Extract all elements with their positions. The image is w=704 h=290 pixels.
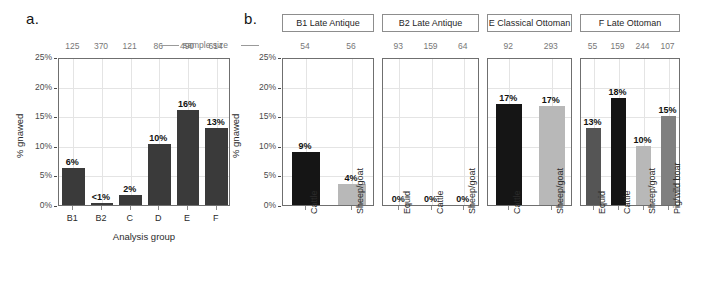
sample-size-value: 107 xyxy=(650,41,686,51)
gridline-h xyxy=(59,176,229,177)
bar-value-label: 6% xyxy=(48,157,96,167)
x-tick-mark-facet xyxy=(351,206,352,210)
y-tick-label-a: 0% xyxy=(24,200,52,210)
y-tick-mark-b xyxy=(278,147,281,148)
x-tick-mark-a xyxy=(187,206,188,210)
y-tick-label-b: 20% xyxy=(246,82,276,92)
sample-size-value: 92 xyxy=(490,41,526,51)
y-tick-mark-b xyxy=(278,58,281,59)
y-tick-label-b: 10% xyxy=(246,141,276,151)
y-tick-mark-b xyxy=(278,117,281,118)
gridline-h xyxy=(59,147,229,148)
x-axis-title-a: Analysis group xyxy=(58,231,230,242)
y-tick-label-a: 15% xyxy=(24,111,52,121)
y-tick-label-a: 5% xyxy=(24,170,52,180)
bar-value-label: 4% xyxy=(331,173,371,183)
x-tick-mark-facet xyxy=(463,206,464,210)
x-tick-mark-facet xyxy=(668,206,669,210)
gridline-v xyxy=(399,59,400,205)
x-category-label: Sheep/goat xyxy=(355,168,365,214)
x-tick-mark-facet xyxy=(618,206,619,210)
x-tick-mark-facet xyxy=(551,206,552,210)
y-tick-mark-a xyxy=(54,176,57,177)
figure-root: a.% gnawed0%5%10%15%20%25%6%<1%2%10%16%1… xyxy=(0,0,704,290)
x-tick-mark-a xyxy=(216,206,217,210)
gridline-v xyxy=(464,59,465,205)
y-tick-mark-a xyxy=(54,117,57,118)
x-tick-mark-facet xyxy=(431,206,432,210)
y-tick-label-a: 25% xyxy=(24,52,52,62)
sample-size-value: 293 xyxy=(533,41,569,51)
plot-area-facet xyxy=(580,58,680,206)
y-tick-mark-b xyxy=(278,88,281,89)
x-category-label: Equid xyxy=(597,191,607,214)
bar-value-label: 10% xyxy=(623,135,663,145)
panel-a-letter: a. xyxy=(26,10,39,27)
sample-size-value: 159 xyxy=(413,41,449,51)
sample-size-dash-right xyxy=(241,45,259,46)
sample-size-value: 93 xyxy=(380,41,416,51)
gridline-h xyxy=(59,58,229,59)
y-tick-label-b: 5% xyxy=(246,170,276,180)
x-tick-mark-facet xyxy=(508,206,509,210)
facet-strip: B1 Late Antique xyxy=(282,14,374,32)
sample-size-dash-left xyxy=(161,45,179,46)
x-category-label: Pig/wild boar xyxy=(672,162,682,214)
x-tick-mark-a xyxy=(130,206,131,210)
bar xyxy=(148,144,170,205)
x-tick-mark-a xyxy=(72,206,73,210)
y-tick-label-a: 10% xyxy=(24,141,52,151)
x-tick-mark-facet xyxy=(305,206,306,210)
bar-value-label: 16% xyxy=(163,99,211,109)
y-tick-label-b: 25% xyxy=(246,52,276,62)
x-tick-mark-a xyxy=(158,206,159,210)
panel-b-letter: b. xyxy=(244,10,257,27)
bar-value-label: 13% xyxy=(573,117,613,127)
y-tick-mark-a xyxy=(54,88,57,89)
sample-size-value: 54 xyxy=(287,41,323,51)
x-category-label: Equid xyxy=(402,191,412,214)
sample-size-value: 56 xyxy=(333,41,369,51)
x-category-label: Cattle xyxy=(435,190,445,214)
x-tick-mark-facet xyxy=(398,206,399,210)
x-category-label: Sheep/goat xyxy=(555,168,565,214)
gridline-v xyxy=(102,59,103,205)
x-tick-mark-facet xyxy=(643,206,644,210)
bar-value-label: 9% xyxy=(285,141,325,151)
bar-value-label: 17% xyxy=(531,95,571,105)
gridline-h xyxy=(283,58,373,59)
y-tick-label-a: 20% xyxy=(24,82,52,92)
x-tick-mark-a xyxy=(101,206,102,210)
bar xyxy=(205,128,227,205)
bar-value-label: 10% xyxy=(134,133,182,143)
facet-strip: E Classical Ottoman xyxy=(487,14,572,32)
y-tick-mark-a xyxy=(54,147,57,148)
y-tick-mark-a xyxy=(54,58,57,59)
y-tick-mark-b xyxy=(278,206,281,207)
bar-value-label: 2% xyxy=(106,184,154,194)
x-category-label: Cattle xyxy=(309,190,319,214)
gridline-h xyxy=(59,88,229,89)
y-tick-label-b: 0% xyxy=(246,200,276,210)
gridline-h xyxy=(283,117,373,118)
facet-strip: F Late Ottoman xyxy=(580,14,680,32)
plot-area-facet xyxy=(382,58,479,206)
bar-value-label: 18% xyxy=(598,87,638,97)
bar xyxy=(91,203,113,205)
x-category-label: Sheep/goat xyxy=(647,168,657,214)
sample-size-annotation: sample size xyxy=(183,40,228,50)
facet-strip: B2 Late Antique xyxy=(382,14,479,32)
bar xyxy=(611,98,627,205)
y-tick-mark-b xyxy=(278,176,281,177)
gridline-v xyxy=(432,59,433,205)
y-tick-mark-a xyxy=(54,206,57,207)
bar-value-label: 15% xyxy=(648,105,688,115)
x-category-label: Sheep/goat xyxy=(467,168,477,214)
gridline-h xyxy=(283,88,373,89)
y-axis-title-b: % gnawed xyxy=(230,114,241,158)
sample-size-value: 64 xyxy=(445,41,481,51)
x-category-label: F xyxy=(196,213,236,223)
y-tick-label-b: 15% xyxy=(246,111,276,121)
x-category-label: Cattle xyxy=(622,190,632,214)
gridline-h xyxy=(488,58,571,59)
